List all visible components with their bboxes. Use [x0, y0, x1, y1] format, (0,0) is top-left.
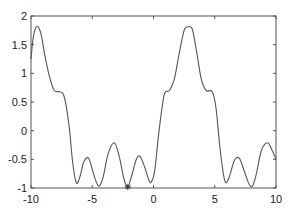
y-tick-label: 0 [21, 125, 27, 137]
x-tick-label: 10 [270, 193, 282, 205]
y-tick-label: 2 [21, 10, 27, 22]
plot-area [31, 16, 276, 188]
y-tick-label: -1 [17, 182, 27, 194]
y-tick-label: 1 [21, 67, 27, 79]
x-axis-tick-labels: -10-50510 [23, 193, 282, 205]
x-tick-label: 0 [150, 193, 156, 205]
y-axis-tick-labels: -1-0.500.511.52 [8, 10, 27, 194]
y-tick-label: 0.5 [12, 96, 27, 108]
x-tick-label: 5 [212, 193, 218, 205]
point-markers [125, 184, 131, 190]
y-tick-label: 1.5 [12, 39, 27, 51]
y-tick-label: -0.5 [8, 153, 27, 165]
x-tick-label: -10 [23, 193, 39, 205]
axes-frame [31, 16, 276, 188]
x-tick-label: -5 [87, 193, 97, 205]
asterisk-marker-icon [125, 184, 131, 190]
line-chart: -10-50510 -1-0.500.511.52 [0, 0, 288, 221]
